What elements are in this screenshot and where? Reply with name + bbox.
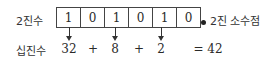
binary-digit-cell: 0 [81,8,105,27]
binary-digit-cell: 0 [129,8,153,27]
decimal-label: 십진수 [16,42,46,58]
arrow-down-icon [69,27,70,37]
arrow-down-icon [115,27,116,37]
binary-digit-cell: 1 [105,8,129,27]
arrow-down-icon [161,27,162,37]
plus-operator: + [88,42,98,56]
plus-operator: + [134,42,144,56]
binary-digit-cell: 1 [153,8,177,27]
decimal-term-2: 2 [157,42,165,56]
binary-digit-boxes: 1 0 1 0 1 0 [56,7,201,28]
binary-point-dot-icon [201,20,206,25]
binary-point-label: 2진 소수점 [210,12,261,28]
binary-digit-cell: 1 [57,8,81,27]
binary-label: 2진수 [16,12,43,28]
decimal-result: = 42 [193,42,222,56]
decimal-term-8: 8 [111,42,119,56]
decimal-term-32: 32 [61,42,76,56]
binary-digit-cell: 0 [177,8,200,27]
